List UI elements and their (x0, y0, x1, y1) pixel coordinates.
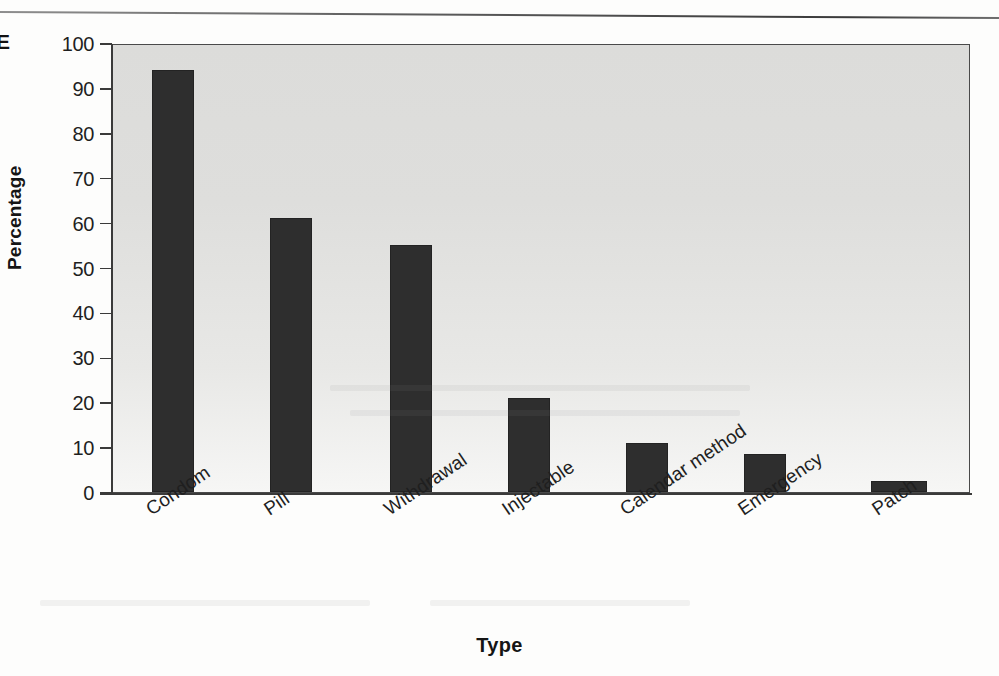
x-axis-title: Type (0, 634, 999, 657)
y-tick-label-30: 30 (46, 347, 94, 370)
bars-layer (113, 45, 969, 492)
y-tick-label-10: 10 (46, 437, 94, 460)
figure-panel: E Percentage 0102030405060708090100 Cond… (0, 0, 999, 676)
y-tick-label-80: 80 (46, 122, 94, 145)
y-tick-label-70: 70 (46, 167, 94, 190)
scan-artifact (350, 410, 740, 416)
top-horizontal-rule (0, 11, 999, 19)
y-tick-label-50: 50 (46, 257, 94, 280)
panel-letter: E (0, 30, 10, 54)
y-tick-label-0: 0 (46, 482, 94, 505)
scan-artifact (40, 600, 370, 606)
scan-artifact (430, 600, 690, 606)
scan-artifact (330, 385, 750, 391)
y-tick-label-20: 20 (46, 392, 94, 415)
y-tick-label-100: 100 (46, 33, 94, 56)
y-tick-label-60: 60 (46, 212, 94, 235)
bar-pill[interactable] (270, 218, 312, 492)
y-axis-line (111, 44, 113, 495)
y-tick-label-90: 90 (46, 77, 94, 100)
y-axis-title: Percentage (4, 166, 26, 270)
bar-condom[interactable] (152, 70, 194, 492)
plot-area (112, 44, 970, 493)
bar-withdrawal[interactable] (390, 245, 432, 492)
y-tick-label-40: 40 (46, 302, 94, 325)
